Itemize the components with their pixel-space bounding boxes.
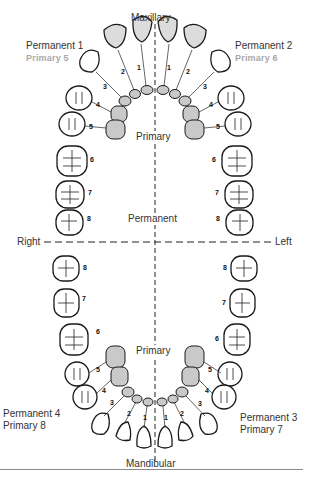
svg-text:2: 2 <box>121 68 125 75</box>
svg-text:4: 4 <box>96 101 100 108</box>
svg-text:2: 2 <box>186 68 190 75</box>
svg-text:3: 3 <box>198 400 202 407</box>
primary-lower-label: Primary <box>136 345 170 357</box>
quadrant-upper-left-primary: Primary 5 <box>26 52 69 64</box>
svg-text:7: 7 <box>222 299 226 306</box>
svg-text:1: 1 <box>164 414 168 421</box>
svg-text:2: 2 <box>180 410 184 417</box>
svg-text:5: 5 <box>96 366 100 373</box>
quadrant-lower-left-permanent: Permanent 4 <box>3 408 60 420</box>
primary-upper-label: Primary <box>136 131 170 143</box>
svg-text:7: 7 <box>82 295 86 302</box>
svg-text:6: 6 <box>212 156 216 163</box>
quadrant-lower-right-primary: Primary 7 <box>240 424 283 436</box>
svg-text:6: 6 <box>90 156 94 163</box>
svg-text:8: 8 <box>216 215 220 222</box>
svg-text:2: 2 <box>127 410 131 417</box>
quadrant-lower-left-primary: Primary 8 <box>3 420 46 432</box>
svg-text:1: 1 <box>143 414 147 421</box>
svg-text:1: 1 <box>137 64 141 71</box>
svg-text:1: 1 <box>167 64 171 71</box>
maxillary-label: Maxillary <box>131 12 170 24</box>
quadrant-lower-right-permanent: Permanent 3 <box>240 412 297 424</box>
bottom-rule <box>0 469 303 470</box>
svg-text:3: 3 <box>203 83 207 90</box>
svg-text:5: 5 <box>216 123 220 130</box>
svg-text:5: 5 <box>208 366 212 373</box>
quadrant-upper-right-primary: Primary 6 <box>235 52 278 64</box>
svg-text:4: 4 <box>205 387 209 394</box>
quadrant-upper-right-permanent: Permanent 2 <box>235 40 292 52</box>
svg-text:8: 8 <box>87 215 91 222</box>
svg-text:7: 7 <box>215 189 219 196</box>
quadrant-upper-left-permanent: Permanent 1 <box>26 40 83 52</box>
svg-text:8: 8 <box>83 264 87 271</box>
permanent-center-label: Permanent <box>128 213 177 225</box>
svg-text:4: 4 <box>209 101 213 108</box>
svg-text:5: 5 <box>89 123 93 130</box>
left-label: Left <box>275 236 292 248</box>
svg-text:8: 8 <box>223 264 227 271</box>
svg-text:7: 7 <box>88 189 92 196</box>
right-label: Right <box>17 236 40 248</box>
svg-text:6: 6 <box>96 328 100 335</box>
svg-text:6: 6 <box>215 335 219 342</box>
svg-text:4: 4 <box>102 387 106 394</box>
svg-text:3: 3 <box>110 399 114 406</box>
svg-text:3: 3 <box>103 83 107 90</box>
